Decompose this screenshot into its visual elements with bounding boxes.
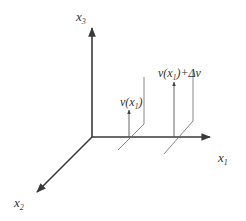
- x1-label-sub: 1: [224, 158, 228, 167]
- vector-1-label-prefix: v(x: [120, 95, 135, 109]
- vector-2-label-delta: Δv: [188, 66, 202, 80]
- vector-1-label: v(x1): [120, 95, 142, 111]
- plane-x1: [118, 77, 144, 150]
- x1-axis-label: x1: [217, 150, 228, 167]
- vector-1-label-suffix: ): [137, 95, 142, 109]
- x2-axis: [37, 137, 92, 192]
- axes: [37, 28, 210, 192]
- x2-axis-label: x2: [13, 195, 24, 212]
- x3-axis-label: x3: [75, 9, 86, 26]
- vector-2-label-suffix: )+: [175, 66, 188, 80]
- plane-x1-plus-dx: [164, 70, 193, 154]
- vector-2-label: v(x1)+Δv: [158, 66, 202, 82]
- x2-label-sub: 2: [20, 203, 24, 212]
- vector-2-label-prefix: v(x: [158, 66, 173, 80]
- coordinate-diagram: x3 x1 x2 v(x1) v(x1)+Δv: [0, 0, 246, 221]
- x3-label-sub: 3: [81, 17, 86, 26]
